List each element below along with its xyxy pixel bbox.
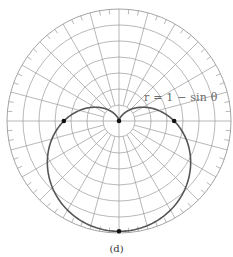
grid-tick bbox=[33, 49, 37, 52]
grid-tick bbox=[220, 158, 225, 160]
grid-tick bbox=[224, 140, 229, 141]
grid-radial-line bbox=[40, 42, 108, 110]
grid-tick bbox=[164, 19, 166, 24]
grid-tick bbox=[33, 190, 37, 193]
marked-point bbox=[172, 119, 177, 124]
marked-point bbox=[62, 119, 67, 124]
grid-tick bbox=[27, 57, 31, 60]
grid-tick bbox=[201, 49, 205, 52]
polar-plot bbox=[0, 0, 233, 257]
grid-tick bbox=[188, 35, 191, 39]
grid-tick bbox=[180, 209, 183, 213]
marked-point bbox=[117, 229, 122, 234]
grid-tick bbox=[220, 83, 225, 85]
grid-tick bbox=[27, 182, 31, 185]
grid-tick bbox=[216, 166, 221, 168]
grid-tick bbox=[188, 203, 191, 207]
grid-tick bbox=[14, 83, 19, 85]
grid-tick bbox=[17, 166, 22, 168]
grid-tick bbox=[207, 182, 211, 185]
grid-tick bbox=[9, 140, 14, 141]
figure-caption: (d) bbox=[0, 243, 233, 254]
grid-tick bbox=[224, 102, 229, 103]
grid-tick bbox=[14, 158, 19, 160]
grid-tick bbox=[55, 29, 58, 33]
marked-point bbox=[117, 119, 122, 124]
grid-tick bbox=[207, 57, 211, 60]
grid-tick bbox=[17, 74, 22, 76]
grid-tick bbox=[81, 16, 83, 21]
grid-tick bbox=[55, 209, 58, 213]
equation-label: r = 1 − sin θ bbox=[144, 91, 218, 104]
grid-tick bbox=[47, 203, 50, 207]
grid-tick bbox=[138, 11, 139, 16]
grid-tick bbox=[100, 11, 101, 16]
grid-tick bbox=[201, 190, 205, 193]
grid-tick bbox=[47, 35, 50, 39]
grid-tick bbox=[156, 16, 158, 21]
grid-tick bbox=[216, 74, 221, 76]
grid-tick bbox=[180, 29, 183, 33]
grid-tick bbox=[9, 102, 14, 103]
grid-tick bbox=[164, 218, 166, 223]
grid-tick bbox=[72, 218, 74, 223]
grid-tick bbox=[72, 19, 74, 24]
